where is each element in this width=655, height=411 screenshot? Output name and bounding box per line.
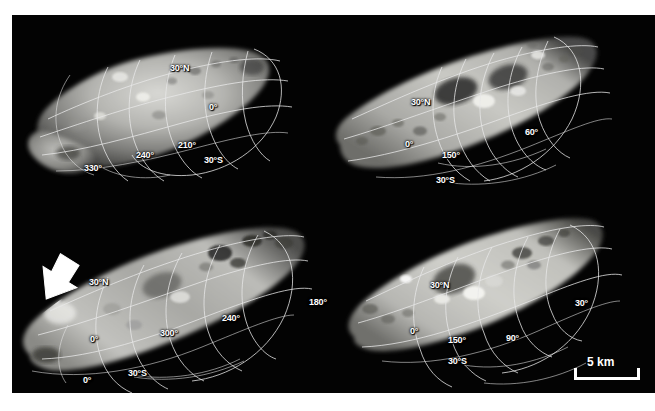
label-90-br: 90° [506,334,519,343]
label-0-tr: 0° [405,140,413,149]
asteroid-body-bottom-left [23,227,304,370]
label-30S-tr: 30°S [436,176,455,185]
label-0-bl-2: 0° [83,376,91,385]
label-240-tl: 240° [136,151,154,160]
asteroid-body-top-right [336,37,597,168]
asteroid-figure: 30°N 0° 210° 240° 30°S 330° [0,0,655,411]
scale-bar-line [574,377,640,380]
label-30S-bl: 30°S [128,369,147,378]
panel-top-right-graphics [332,15,655,205]
label-30N-tr: 30°N [411,98,430,107]
label-30N-bl: 30°N [89,278,108,287]
panel-top-left: 30°N 0° 210° 240° 30°S 330° [12,15,332,205]
label-180-bl: 180° [309,298,327,307]
scale-bar-label: 5 km [587,355,614,369]
scale-bar: 5 km [572,355,652,389]
scale-bar-tick-left [574,368,577,380]
panel-top-left-graphics [12,15,332,205]
label-30-br: 30° [575,299,588,308]
panel-bottom-left-graphics [12,205,332,393]
asteroid-body-bottom-right [349,218,603,351]
label-150-br: 150° [448,336,466,345]
label-60-tr: 60° [525,128,538,137]
panel-bottom-left: 30°N 0° 300° 240° 180° 30°S 0° [12,205,332,393]
label-300-bl: 300° [160,329,178,338]
label-210-tl: 210° [178,141,196,150]
label-30S-tl: 30°S [204,156,223,165]
label-330-tl: 330° [84,164,102,173]
label-30N-br: 30°N [430,281,449,290]
label-240-bl: 240° [222,314,240,323]
label-0-bl: 0° [90,335,98,344]
panel-top-right: 30°N 0° 150° 60° 30°S [332,15,655,205]
label-150-tr: 150° [442,151,460,160]
label-0-tl: 0° [209,103,217,112]
scale-bar-tick-right [637,368,640,380]
label-30S-br: 30°S [448,357,467,366]
image-plate: 30°N 0° 210° 240° 30°S 330° [12,15,655,393]
label-0-br: 0° [410,327,418,336]
label-30N-tl: 30°N [170,64,189,73]
